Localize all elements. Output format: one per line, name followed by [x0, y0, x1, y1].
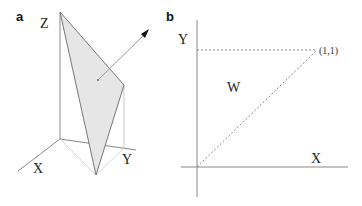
panel-b: b Y X W (1,1)	[166, 9, 348, 197]
normal-origin-dot	[97, 79, 99, 81]
panel-a-label: a	[16, 9, 24, 24]
y-axis-label: Y	[178, 32, 188, 47]
region-label: W	[227, 80, 241, 95]
dashed-diagonal	[197, 50, 317, 167]
x-axis-label: X	[33, 161, 43, 176]
plane	[60, 12, 124, 175]
normal-vector	[98, 33, 146, 80]
z-axis-label: Z	[40, 16, 49, 31]
point-label: (1,1)	[319, 45, 338, 57]
y-axis-label: Y	[122, 152, 132, 167]
panel-a: a Z X Y	[16, 9, 149, 176]
panel-b-label: b	[166, 9, 174, 24]
figure: a Z X Y b Y X W (1,1)	[0, 0, 362, 206]
x-axis-label: X	[311, 151, 321, 166]
